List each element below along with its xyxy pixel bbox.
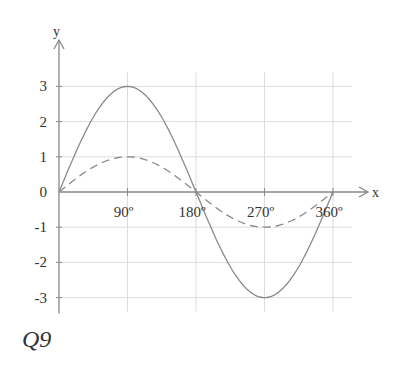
- x-tick-label: 270º: [247, 204, 275, 220]
- sine-chart: 3210-1-2-390º180º270º360ºyx: [0, 0, 398, 369]
- question-caption: Q9: [22, 326, 51, 353]
- axis-labels: 3210-1-2-390º180º270º360ºyx: [35, 24, 380, 306]
- y-tick-label: 0: [40, 184, 48, 200]
- x-tick-label: 90º: [114, 204, 134, 220]
- y-axis-label: y: [53, 24, 60, 39]
- x-tick-label: 360º: [315, 204, 343, 220]
- x-tick-label: 180º: [178, 204, 206, 220]
- axes: [54, 40, 368, 313]
- x-axis-label: x: [372, 185, 379, 200]
- y-tick-label: 1: [40, 149, 48, 165]
- y-tick-label: 2: [40, 114, 48, 130]
- y-tick-label: 3: [40, 78, 48, 94]
- y-tick-label: -1: [35, 219, 48, 235]
- y-tick-label: -2: [35, 254, 48, 270]
- y-tick-label: -3: [35, 290, 48, 306]
